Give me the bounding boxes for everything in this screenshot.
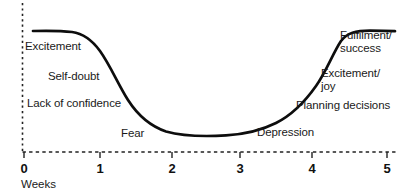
x-tick-label-3: 3 bbox=[230, 162, 250, 176]
x-tick-label-1: 1 bbox=[90, 162, 110, 176]
annotation-lack-of-confidence: Lack of confidence bbox=[27, 97, 121, 110]
x-tick-label-5: 5 bbox=[377, 162, 397, 176]
change-curve-figure: Excitement Self-doubt Lack of confidence… bbox=[0, 0, 411, 196]
annotation-excitement-joy: Excitement/ joy bbox=[321, 67, 380, 92]
annotation-excitement: Excitement bbox=[25, 40, 81, 53]
annotation-self-doubt: Self-doubt bbox=[48, 70, 99, 83]
x-tick-label-0: 0 bbox=[14, 162, 34, 176]
annotation-fulfilment-success: Fulfilment/ success bbox=[340, 29, 392, 54]
x-axis-tick-marks bbox=[24, 152, 387, 158]
x-axis-title: Weeks bbox=[21, 178, 56, 191]
annotation-depression: Depression bbox=[257, 126, 314, 139]
annotation-planning-decisions: Planning decisions bbox=[296, 99, 390, 112]
annotation-fear: Fear bbox=[121, 127, 144, 140]
x-tick-label-2: 2 bbox=[162, 162, 182, 176]
x-tick-label-4: 4 bbox=[302, 162, 322, 176]
